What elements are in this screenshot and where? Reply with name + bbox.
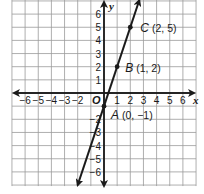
origin-label: O	[92, 94, 101, 106]
y-tick-label: 3	[95, 49, 101, 60]
x-tick-label: 2	[128, 95, 134, 106]
x-tick-label: 6	[180, 95, 186, 106]
y-tick-label: 2	[95, 62, 101, 73]
point-a-label: A(0, −1)	[110, 108, 153, 122]
point-c-label: C(2, 5)	[140, 21, 176, 35]
x-tick-label: −4	[46, 95, 58, 106]
x-tick-label: 5	[167, 95, 173, 106]
point-b-label: B(1, 2)	[125, 61, 161, 75]
x-tick-label: −5	[33, 95, 45, 106]
x-tick-label: 1	[114, 95, 120, 106]
x-tick-label: −3	[59, 95, 71, 106]
point-a-marker	[102, 104, 107, 109]
x-tick-label: −2	[72, 95, 84, 106]
x-tick-label: 4	[154, 95, 160, 106]
y-tick-label: −6	[90, 167, 102, 178]
point-c-marker	[128, 25, 133, 30]
x-tick-label: 3	[141, 95, 147, 106]
y-tick-label: −5	[90, 154, 102, 165]
y-tick-label: 6	[95, 9, 101, 20]
y-axis-label: y	[107, 0, 114, 12]
y-tick-label: 4	[95, 35, 101, 46]
point-b-marker	[115, 64, 120, 69]
x-tick-label: −6	[19, 95, 31, 106]
coordinate-plane: xyO −6−5−4−3−2123456654321−2−3−4−5−6 A(0…	[0, 0, 204, 194]
x-axis-label: x	[192, 94, 199, 106]
y-tick-label: 5	[95, 22, 101, 33]
labeled-points: A(0, −1)B(1, 2)C(2, 5)	[102, 21, 177, 122]
y-tick-label: 1	[95, 75, 101, 86]
